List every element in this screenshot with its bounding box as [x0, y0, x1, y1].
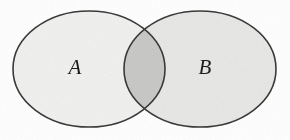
set-b-label: B [199, 55, 212, 79]
set-a-label: A [67, 55, 82, 79]
venn-diagram-canvas: A B [0, 0, 290, 140]
venn-diagram-figure: A B [0, 0, 290, 140]
